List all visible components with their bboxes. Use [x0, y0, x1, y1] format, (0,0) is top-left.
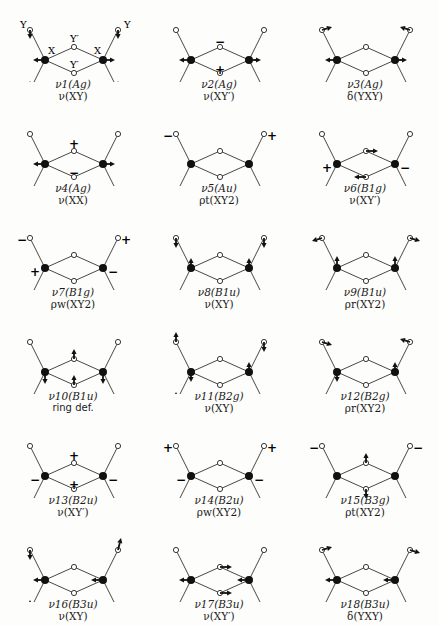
mode-description-label: ρt(XY2)	[292, 506, 438, 518]
mode-description-label: ρt(XY2)	[146, 194, 292, 206]
mode-description-label: ν(XX)	[0, 194, 146, 206]
mode-diagram-18: ν18(B3u)δ(YXY)	[292, 522, 438, 626]
mode-symmetry-label: ν10(B1u)	[0, 390, 146, 402]
svg-text:−: −	[69, 166, 79, 180]
mode-symmetry-label: ν2(Ag)	[146, 78, 292, 90]
svg-text:+: +	[215, 63, 225, 77]
molecule-structure-icon	[292, 2, 438, 82]
mode-diagram-12: ν12(B2g)ρr(XY2)	[292, 314, 438, 418]
mode-description-label: δ(YXY)	[292, 610, 438, 622]
mode-diagram-7: −++−−+ν7(B1g)ρw(XY2)	[0, 210, 146, 314]
mode-description-label: ν(XY)	[0, 610, 146, 622]
mode-description-label: ν(XY)	[146, 298, 292, 310]
svg-text:Y: Y	[19, 19, 27, 30]
svg-text:+: +	[121, 233, 131, 247]
mode-symmetry-label: ν14(B2u)	[146, 494, 292, 506]
mode-symmetry-label: ν5(Au)	[146, 182, 292, 194]
molecule-structure-icon	[292, 210, 438, 290]
molecule-structure-icon: ++−−++	[146, 418, 292, 498]
molecule-structure-icon	[0, 314, 146, 394]
mode-description-label: ρr(XY2)	[292, 402, 438, 414]
mode-description-label: ν(XY′)	[146, 90, 292, 102]
mode-diagram-14: ++−−++ν14(B2u)ρw(XY2)	[146, 418, 292, 522]
mode-description-label: ν(XY′)	[292, 194, 438, 206]
svg-text:X: X	[94, 45, 102, 56]
svg-text:−: −	[30, 473, 40, 487]
svg-text:X: X	[48, 45, 56, 56]
molecule-structure-icon: −++−−+	[0, 210, 146, 290]
mode-symmetry-label: ν11(B2g)	[146, 390, 292, 402]
mode-symmetry-label: ν7(B1g)	[0, 286, 146, 298]
molecule-structure-icon	[146, 314, 292, 394]
svg-text:+: +	[267, 441, 277, 455]
svg-text:−: −	[413, 441, 423, 455]
mode-diagram-9: ν9(B1u)ρr(XY2)	[292, 210, 438, 314]
svg-text:−: −	[215, 35, 225, 49]
mode-symmetry-label: ν12(B2g)	[292, 390, 438, 402]
molecule-structure-icon	[292, 522, 438, 602]
mode-symmetry-label: ν3(Ag)	[292, 78, 438, 90]
svg-text:+: +	[163, 441, 173, 455]
svg-text:+: +	[322, 161, 332, 175]
svg-text:−: −	[17, 233, 27, 247]
mode-symmetry-label: ν4(Ag)	[0, 182, 146, 194]
mode-symmetry-label: ν18(B3u)	[292, 598, 438, 610]
mode-diagram-17: ν17(B3u)ν(XY′)	[146, 522, 292, 626]
mode-diagram-13: ++−−ν13(B2u)ν(XY′)	[0, 418, 146, 522]
mode-diagram-16: ν16(B3u)ν(XY)	[0, 522, 146, 626]
mode-diagram-3: ν3(Ag)δ(YXY)	[292, 2, 438, 106]
mode-description-label: ν(XY′)	[0, 506, 146, 518]
svg-text:−: −	[108, 265, 118, 279]
mode-description-label: ring def.	[0, 402, 146, 414]
mode-symmetry-label: ν13(B2u)	[0, 494, 146, 506]
svg-text:+: +	[69, 478, 79, 492]
mode-diagram-1: YYYYXXY′Y′ν1(Ag)ν(XY)	[0, 2, 146, 106]
svg-text:+: +	[30, 265, 40, 279]
mode-diagram-8: ν8(B1u)ν(XY)	[146, 210, 292, 314]
mode-diagram-4: +−ν4(Ag)ν(XX)	[0, 106, 146, 210]
svg-text:−: −	[108, 473, 118, 487]
svg-text:−: −	[254, 473, 264, 487]
mode-description-label: ν(XY′)	[146, 610, 292, 622]
molecule-structure-icon: −++−	[146, 106, 292, 186]
mode-description-label: δ(YXY)	[292, 90, 438, 102]
mode-symmetry-label: ν6(B1g)	[292, 182, 438, 194]
mode-diagram-10: ν10(B1u)ring def.	[0, 314, 146, 418]
mode-symmetry-label: ν1(Ag)	[0, 78, 146, 90]
mode-description-label: ν(XY)	[146, 402, 292, 414]
mode-diagram-15: −−++ν15(B3g)ρt(XY2)	[292, 418, 438, 522]
mode-diagram-5: −++−ν5(Au)ρt(XY2)	[146, 106, 292, 210]
mode-symmetry-label: ν8(B1u)	[146, 286, 292, 298]
mode-symmetry-label: ν16(B3u)	[0, 598, 146, 610]
svg-text:+: +	[69, 137, 79, 151]
mode-symmetry-label: ν15(B3g)	[292, 494, 438, 506]
molecule-structure-icon: YYYYXXY′Y′	[0, 2, 146, 82]
molecule-structure-icon	[146, 522, 292, 602]
molecule-structure-icon	[146, 210, 292, 290]
svg-text:Y: Y	[123, 19, 131, 30]
mode-diagram-6: +−ν6(B1g)ν(XY′)	[292, 106, 438, 210]
svg-text:+: +	[69, 449, 79, 463]
svg-text:−: −	[176, 473, 186, 487]
svg-text:+: +	[267, 129, 277, 143]
molecule-structure-icon: −−++	[292, 418, 438, 498]
svg-text:−: −	[400, 161, 410, 175]
molecule-structure-icon: −+	[146, 2, 292, 82]
mode-description-label: ν(XY)	[0, 90, 146, 102]
mode-description-label: ρr(XY2)	[292, 298, 438, 310]
mode-diagram-2: −+ν2(Ag)ν(XY′)	[146, 2, 292, 106]
molecule-structure-icon	[292, 314, 438, 394]
mode-symmetry-label: ν9(B1u)	[292, 286, 438, 298]
mode-diagram-11: ν11(B2g)ν(XY)	[146, 314, 292, 418]
svg-text:−: −	[309, 441, 319, 455]
svg-text:Y′: Y′	[69, 59, 80, 70]
molecule-structure-icon: +−	[0, 106, 146, 186]
svg-text:−: −	[163, 129, 173, 143]
molecule-structure-icon: +−	[292, 106, 438, 186]
molecule-structure-icon	[0, 522, 146, 602]
mode-symmetry-label: ν17(B3u)	[146, 598, 292, 610]
mode-description-label: ρw(XY2)	[0, 298, 146, 310]
svg-text:Y′: Y′	[69, 33, 80, 44]
molecule-structure-icon: ++−−	[0, 418, 146, 498]
mode-description-label: ρw(XY2)	[146, 506, 292, 518]
